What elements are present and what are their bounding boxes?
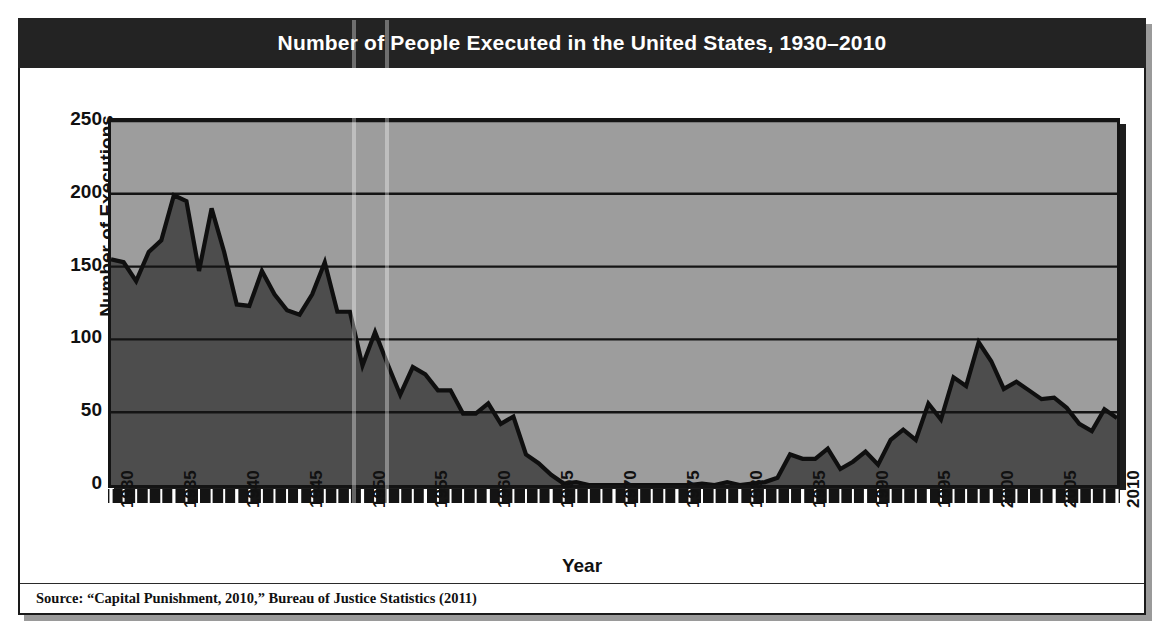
- x-tick-label: 1965: [558, 470, 578, 508]
- x-tick-label: 1945: [307, 470, 327, 508]
- x-tick-label: 1990: [873, 470, 893, 508]
- y-axis-tick-labels: 050100150200250: [46, 0, 102, 635]
- x-axis-title: Year: [0, 555, 1164, 577]
- x-tick-label: 1995: [935, 470, 955, 508]
- plot-area: [108, 118, 1120, 488]
- y-tick-label: 150: [50, 254, 102, 276]
- x-tick-label: 1930: [118, 470, 138, 508]
- x-tick-label: 1975: [684, 470, 704, 508]
- x-tick-label: 1970: [621, 470, 641, 508]
- x-tick-label: 1950: [370, 470, 390, 508]
- y-tick-label: 250: [50, 108, 102, 130]
- chart-figure: Number of People Executed in the United …: [0, 0, 1164, 635]
- x-tick-label: 2010: [1124, 470, 1144, 508]
- plot-inner: [111, 121, 1117, 485]
- area-chart-svg: [111, 121, 1117, 485]
- title-bar: Number of People Executed in the United …: [18, 18, 1146, 68]
- chart-title: Number of People Executed in the United …: [278, 31, 887, 55]
- y-tick-label: 50: [50, 399, 102, 421]
- x-tick-label: 1955: [432, 470, 452, 508]
- x-tick-label: 2000: [998, 470, 1018, 508]
- x-tick-label: 1935: [181, 470, 201, 508]
- x-tick-label: 1960: [495, 470, 515, 508]
- y-tick-label: 200: [50, 181, 102, 203]
- x-tick-label: 1985: [810, 470, 830, 508]
- x-tick-label: 1980: [747, 470, 767, 508]
- x-tick-label: 1940: [244, 470, 264, 508]
- y-tick-label: 0: [50, 472, 102, 494]
- source-note: Source: “Capital Punishment, 2010,” Bure…: [20, 590, 477, 607]
- x-tick-label: 2005: [1061, 470, 1081, 508]
- y-tick-label: 100: [50, 326, 102, 348]
- source-bar: Source: “Capital Punishment, 2010,” Bure…: [20, 583, 1144, 613]
